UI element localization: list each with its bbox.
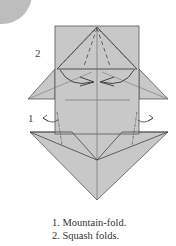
step-label-1: 1	[28, 112, 34, 124]
caption-line-1: 1. Mountain-fold.	[52, 216, 126, 229]
lower-triangle	[30, 132, 168, 200]
step-label-2: 2	[35, 47, 41, 59]
caption: 1. Mountain-fold. 2. Squash folds.	[52, 216, 126, 242]
step-marker-circle	[0, 0, 32, 24]
origami-diagram	[0, 0, 176, 246]
caption-line-2: 2. Squash folds.	[52, 229, 126, 242]
right-wing	[139, 69, 168, 99]
left-wing	[28, 69, 55, 99]
mountain-fold-arrow-right	[138, 115, 153, 122]
